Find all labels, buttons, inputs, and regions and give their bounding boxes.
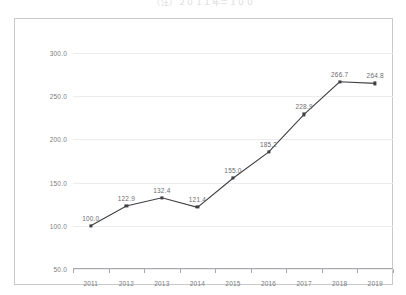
x-axis-tick [322, 269, 323, 273]
data-point-label: 185.2 [260, 141, 277, 148]
data-point-marker [196, 206, 199, 209]
series-line [73, 53, 393, 269]
x-axis-tick [180, 269, 181, 273]
x-axis [73, 268, 393, 269]
x-axis-tick-label: 2013 [154, 280, 169, 287]
y-axis-tick-label: 300.0 [33, 50, 67, 57]
x-axis-tick-label: 2015 [225, 280, 240, 287]
x-axis-tick [393, 269, 394, 273]
data-point-label: 264.8 [367, 72, 384, 79]
x-axis-tick [109, 269, 110, 273]
x-axis-tick [215, 269, 216, 273]
data-point-marker [160, 196, 163, 199]
data-point-label: 155.0 [224, 167, 241, 174]
data-point-label: 228.9 [295, 103, 312, 110]
y-axis-tick-label: 150.0 [33, 179, 67, 186]
y-axis-tick-label: 250.0 [33, 93, 67, 100]
x-axis-tick-label: 2019 [368, 280, 383, 287]
plot-area: 300.0250.0200.0150.0100.050.0 100.0122.9… [73, 53, 393, 269]
x-axis-tick-label: 2012 [119, 280, 134, 287]
y-axis-tick-label: 50.0 [33, 266, 67, 273]
line-path [91, 82, 375, 226]
data-point-marker [125, 204, 128, 207]
data-point-marker [267, 151, 270, 154]
x-axis-tick [73, 269, 74, 273]
data-point-label: 100.0 [82, 215, 99, 222]
chart-title: （注）２０１１年＝１００ [0, 0, 406, 8]
data-point-label: 121.4 [189, 196, 206, 203]
data-point-marker [89, 224, 92, 227]
x-axis-tick [251, 269, 252, 273]
data-point-label: 132.4 [153, 187, 170, 194]
x-axis-tick-label: 2011 [83, 280, 98, 287]
data-point-label: 122.9 [118, 195, 135, 202]
data-point-marker [303, 113, 306, 116]
x-axis-tick [144, 269, 145, 273]
data-point-marker [374, 82, 377, 85]
gridline [73, 269, 393, 270]
x-axis-tick [357, 269, 358, 273]
x-axis-tick-label: 2018 [332, 280, 347, 287]
x-axis-tick [286, 269, 287, 273]
y-axis-tick-label: 100.0 [33, 222, 67, 229]
x-axis-tick-label: 2017 [296, 280, 311, 287]
chart-frame: 300.0250.0200.0150.0100.050.0 100.0122.9… [14, 18, 393, 285]
data-point-marker [338, 80, 341, 83]
x-axis-tick-label: 2014 [190, 280, 205, 287]
data-point-label: 266.7 [331, 71, 348, 78]
y-axis-tick-label: 200.0 [33, 136, 67, 143]
x-axis-tick-label: 2016 [261, 280, 276, 287]
data-point-marker [231, 177, 234, 180]
